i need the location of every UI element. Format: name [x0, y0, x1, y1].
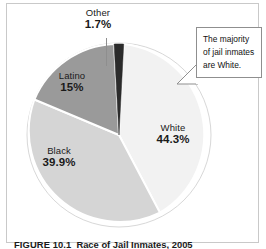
pie-label-latino-value: 15% — [43, 81, 101, 95]
pie-label-black-value: 39.9% — [28, 156, 90, 170]
figure-title: Race of Jail Inmates, 2005 — [76, 239, 192, 249]
figure-number: FIGURE 10.1 — [14, 239, 71, 249]
pie-label-other: Other 1.7% — [62, 7, 134, 32]
pie-label-other-name: Other — [62, 7, 134, 18]
pie-label-other-value: 1.7% — [62, 18, 134, 32]
pie-label-black-name: Black — [28, 145, 90, 156]
figure-container: Other 1.7% Latino 15% Black 39.9% White … — [0, 0, 266, 249]
callout-box: The majority of jail inmates are White. — [196, 27, 262, 78]
pie-label-white-value: 44.3% — [140, 133, 206, 147]
pie-label-latino: Latino 15% — [43, 70, 101, 95]
pie-label-latino-name: Latino — [43, 70, 101, 81]
other-leader-line — [106, 38, 107, 66]
callout-text: The majority of jail inmates are White. — [203, 33, 256, 72]
figure-caption: FIGURE 10.1Race of Jail Inmates, 2005 — [14, 239, 258, 249]
pie-label-white: White 44.3% — [140, 122, 206, 147]
pie-label-black: Black 39.9% — [28, 145, 90, 170]
pie-label-white-name: White — [140, 122, 206, 133]
callout-tail-icon — [176, 63, 198, 85]
